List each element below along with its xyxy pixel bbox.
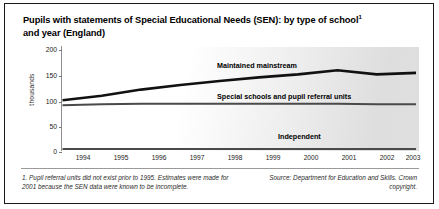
footer-divider [21,168,419,169]
x-tick-label-1998: 1998 [218,154,252,161]
series-label-special-schools: Special schools and pupil referral units [217,92,351,101]
x-tick-label-1994: 1994 [66,154,100,161]
x-tick-label-2003: 2003 [396,154,430,161]
x-tick-label-1995: 1995 [104,154,138,161]
series-label-maintained-mainstream: Maintained mainstream [217,61,297,70]
source-text: Source: Department for Education and Ski… [242,173,417,191]
footnote-text: 1. Pupil referral units did not exist pr… [22,173,237,191]
x-tick-label-2000: 2000 [294,154,328,161]
x-tick-label-1999: 1999 [256,154,290,161]
series-label-independent: Independent [278,132,321,141]
figure-panel: Pupils with statements of Special Educat… [4,3,434,204]
x-tick-label-1996: 1996 [142,154,176,161]
line-special-schools [63,104,417,106]
x-tick-label-1997: 1997 [180,154,214,161]
x-tick-label-2001: 2001 [332,154,366,161]
